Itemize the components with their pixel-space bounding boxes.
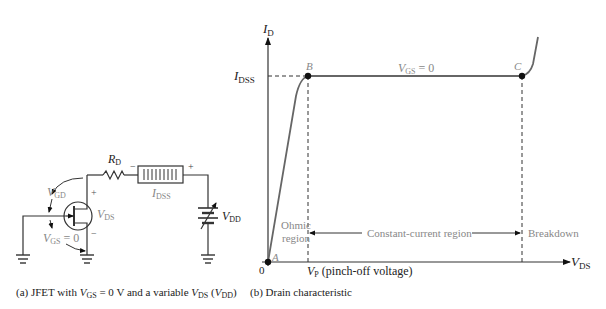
resistor-rd xyxy=(103,171,124,179)
label-vds-minus: − xyxy=(91,228,97,239)
x-axis-label: VDS xyxy=(571,254,590,271)
constant-region-label: Constant-current region xyxy=(367,227,472,239)
ground-icon-source xyxy=(80,255,94,263)
origin-label: 0 xyxy=(259,264,265,276)
caption-a: (a) JFET with VGS = 0 V and a variable V… xyxy=(16,286,237,300)
label-rd: RD xyxy=(107,152,121,167)
idss-tick-label: IDSS xyxy=(233,68,255,85)
point-c-label: C xyxy=(514,60,522,72)
label-vgs: VGS = 0 xyxy=(43,231,79,246)
label-vds: VDS xyxy=(97,207,115,222)
label-ammeter-minus: − xyxy=(130,161,136,172)
figure-canvas: RD − + IDSS VDD VDS + − VGD VGS = 0 ID V… xyxy=(0,0,606,309)
point-b-label: B xyxy=(306,60,313,72)
y-axis-label: ID xyxy=(262,21,274,38)
vp-label: VP (pinch-off voltage) xyxy=(307,264,413,279)
ground-icon-gate xyxy=(16,255,30,263)
point-a-label: A xyxy=(271,251,279,263)
label-vdd: VDD xyxy=(222,209,241,224)
label-vds-plus: + xyxy=(91,187,97,198)
breakdown-region-label: Breakdown xyxy=(528,227,579,239)
vgs-arrow-icon xyxy=(50,220,52,228)
point-c-marker xyxy=(519,73,525,79)
label-idss: IDSS xyxy=(151,186,171,201)
point-b-marker xyxy=(305,73,311,79)
vgs-arrow-icon-lower xyxy=(66,244,85,251)
caption-b: (b) Drain characteristic xyxy=(250,286,352,298)
vgd-arrow-icon-lower xyxy=(49,199,52,212)
curve-label: VGS = 0 xyxy=(398,61,434,76)
label-ammeter-plus: + xyxy=(188,161,194,172)
ground-icon-supply xyxy=(201,255,215,263)
ohmic-region-label-1: Ohmic xyxy=(281,219,311,231)
point-a-marker xyxy=(265,259,271,265)
ohmic-region-label-2: region xyxy=(282,232,311,244)
